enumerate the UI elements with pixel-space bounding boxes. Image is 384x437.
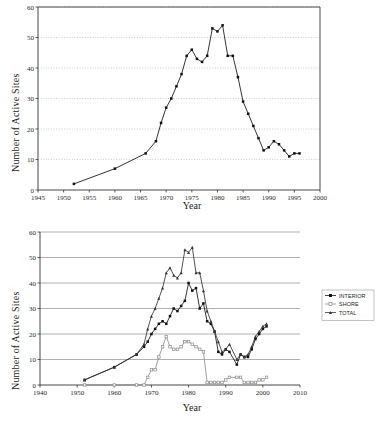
data-point xyxy=(161,287,164,290)
data-point xyxy=(288,155,291,158)
data-point xyxy=(113,384,116,387)
data-point xyxy=(293,152,296,155)
data-point xyxy=(206,381,209,384)
data-point xyxy=(278,143,281,146)
x-tick-label: 1970 xyxy=(144,389,159,397)
data-point xyxy=(180,73,183,76)
data-point xyxy=(169,315,172,318)
data-series-group-2 xyxy=(83,246,268,386)
chart-legend: INTERIORSHORETOTAL xyxy=(322,290,374,321)
data-point xyxy=(143,384,146,387)
x-tick-label: 1940 xyxy=(33,389,48,397)
data-point xyxy=(183,248,186,251)
data-point xyxy=(165,335,168,338)
series-total xyxy=(83,246,268,382)
data-point xyxy=(265,325,268,328)
data-point xyxy=(217,351,220,354)
data-point xyxy=(169,266,172,269)
data-point xyxy=(198,348,201,351)
legend-label: INTERIOR xyxy=(339,293,366,299)
data-point xyxy=(198,307,201,310)
y-tick-labels-2: 0102030405060 xyxy=(29,229,40,390)
y-tick-label: 20 xyxy=(29,331,37,339)
data-point xyxy=(73,183,76,186)
data-point xyxy=(228,351,231,354)
data-point xyxy=(221,353,224,356)
data-point xyxy=(242,100,245,103)
data-point xyxy=(213,381,216,384)
legend-label: TOTAL xyxy=(339,310,356,316)
y-tick-label: 10 xyxy=(29,356,37,364)
data-point xyxy=(237,76,240,79)
data-point xyxy=(258,379,261,382)
data-point xyxy=(161,346,164,349)
data-point xyxy=(202,302,205,305)
x-tick-label: 1990 xyxy=(219,389,234,397)
data-point xyxy=(176,310,179,313)
data-point xyxy=(196,58,199,61)
data-point xyxy=(158,323,161,326)
data-point xyxy=(161,320,164,323)
data-point xyxy=(267,146,270,149)
x-tick-label: 2010 xyxy=(293,389,308,397)
x-tick-label: 1960 xyxy=(107,389,122,397)
data-point xyxy=(172,307,175,310)
data-point xyxy=(217,381,220,384)
data-point xyxy=(184,340,187,343)
data-point xyxy=(236,363,239,366)
x-tick-label: 2000 xyxy=(256,389,271,397)
cut-off-caption xyxy=(0,428,384,437)
data-point xyxy=(180,271,183,274)
data-point xyxy=(169,346,172,349)
data-point xyxy=(150,333,153,336)
series-total-active-sites xyxy=(73,24,301,185)
chart-interior-shore-total: Number of Active Sites 0102030405060 194… xyxy=(0,222,384,422)
y-tick-label: 10 xyxy=(27,156,35,164)
data-point xyxy=(195,287,198,290)
y-tick-label: 50 xyxy=(29,254,37,262)
data-point xyxy=(191,289,194,292)
data-point xyxy=(239,376,242,379)
data-point xyxy=(232,55,235,58)
data-point xyxy=(165,106,168,109)
data-point xyxy=(224,379,227,382)
data-point xyxy=(250,381,253,384)
data-point xyxy=(236,376,239,379)
series-line xyxy=(85,283,267,380)
data-point xyxy=(146,376,149,379)
data-point xyxy=(202,289,205,292)
y-tick-label: 40 xyxy=(27,65,35,73)
y-tick-label: 30 xyxy=(29,305,37,313)
y-tick-label: 30 xyxy=(27,95,35,103)
data-point xyxy=(243,381,246,384)
data-point xyxy=(144,152,147,155)
data-point xyxy=(184,300,187,303)
data-point xyxy=(226,55,229,58)
series-line xyxy=(74,25,300,184)
data-point xyxy=(202,351,205,354)
x-tick-labels-2: 19401950196019701980199020002010 xyxy=(33,385,308,397)
data-point xyxy=(175,85,178,88)
data-point xyxy=(170,97,173,100)
data-point xyxy=(257,137,260,140)
series-shore xyxy=(83,335,268,386)
data-point xyxy=(210,381,213,384)
data-point xyxy=(187,282,190,285)
data-point xyxy=(146,327,149,330)
gridlines-2 xyxy=(40,232,300,360)
data-point xyxy=(165,323,168,326)
data-point xyxy=(206,320,209,323)
data-point xyxy=(191,246,194,249)
data-point xyxy=(211,27,214,30)
y-tick-labels-1: 0102030405060 xyxy=(27,4,38,195)
y-tick-label: 40 xyxy=(29,280,37,288)
data-point xyxy=(191,48,194,51)
data-point xyxy=(172,274,175,277)
x-tick-label: 1980 xyxy=(182,389,197,397)
data-point xyxy=(83,384,86,387)
data-point xyxy=(143,343,146,346)
data-point xyxy=(209,320,212,323)
data-point xyxy=(265,376,268,379)
data-point xyxy=(221,24,224,27)
figure-page: Number of Active Sites 0102030405060 194… xyxy=(0,0,384,437)
